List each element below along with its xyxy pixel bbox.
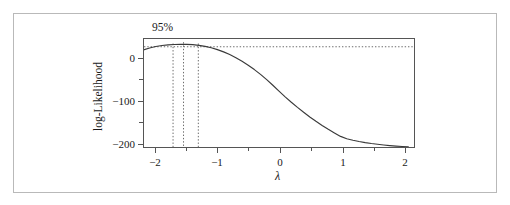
- x-axis-ticks: [155, 148, 405, 153]
- x-tick-label-minus-2: −2: [141, 157, 169, 168]
- x-tick-label-0: 0: [266, 157, 294, 168]
- figure-root: 0 −100 −200 −2 −1 0 1 2 log-Likelihood λ…: [0, 0, 510, 205]
- x-tick-label-2: 2: [391, 157, 419, 168]
- x-tick-label-1: 1: [329, 157, 357, 168]
- y-tick-label-minus-100: −100: [100, 96, 135, 107]
- y-tick-label-minus-200: −200: [100, 139, 135, 150]
- y-tick-label-0: 0: [107, 53, 135, 64]
- x-tick-label-minus-1: −1: [203, 157, 231, 168]
- plot-frame-border: [143, 38, 415, 148]
- y-axis-title: log-Likelihood: [92, 62, 104, 131]
- x-axis-title: λ: [275, 169, 280, 184]
- confidence-level-label: 95%: [152, 21, 173, 33]
